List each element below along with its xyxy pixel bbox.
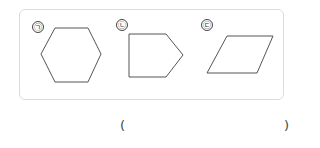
- label-nieun: ㉡: [116, 19, 128, 31]
- label-digeut: ㉢: [201, 19, 213, 31]
- answer-blank[interactable]: [132, 118, 282, 136]
- answer-open-paren: (: [120, 118, 125, 133]
- label-giyeok: ㉠: [32, 21, 44, 33]
- answer-close-paren: ): [284, 118, 289, 133]
- parallelogram-figure: [207, 36, 273, 73]
- hexagon-figure: [41, 28, 101, 82]
- pentagon-figure: [129, 34, 183, 77]
